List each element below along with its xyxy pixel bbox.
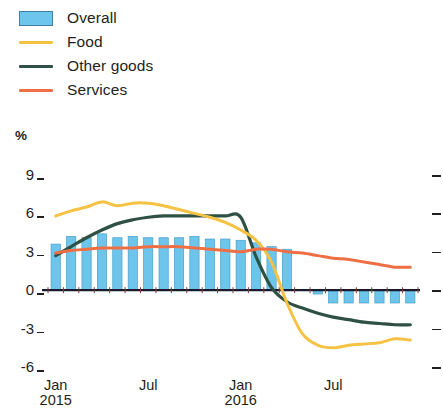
bar — [128, 236, 137, 290]
x-tick-year: 2015 — [26, 393, 86, 408]
x-tick-label-3: Jul — [303, 378, 363, 393]
x-tick-label-0: Jan2015 — [26, 378, 86, 408]
x-tick-label-1: Jul — [118, 378, 178, 393]
line-series-services — [56, 247, 411, 268]
bar — [221, 239, 230, 290]
inflation-chart: Overall Food Other goods Services % 9630… — [0, 0, 443, 417]
x-tick-month: Jul — [139, 377, 158, 393]
bar — [406, 290, 415, 303]
line-series-food — [56, 202, 411, 348]
plot-area — [0, 0, 443, 417]
bar — [236, 240, 245, 290]
bar — [113, 238, 122, 290]
bar — [97, 234, 106, 290]
x-tick-year: 2016 — [211, 393, 271, 408]
bar — [329, 290, 338, 303]
x-tick-label-2: Jan2016 — [211, 378, 271, 408]
x-tick-month: Jan — [229, 377, 252, 393]
line-series-other-goods — [56, 214, 411, 325]
bar — [359, 290, 368, 303]
bar — [375, 290, 384, 303]
bar — [282, 249, 291, 290]
bar — [390, 290, 399, 303]
x-tick-month: Jan — [44, 377, 67, 393]
bar — [344, 290, 353, 303]
bar — [82, 238, 91, 290]
x-tick-month: Jul — [324, 377, 343, 393]
bar — [190, 236, 199, 290]
bar — [205, 239, 214, 290]
